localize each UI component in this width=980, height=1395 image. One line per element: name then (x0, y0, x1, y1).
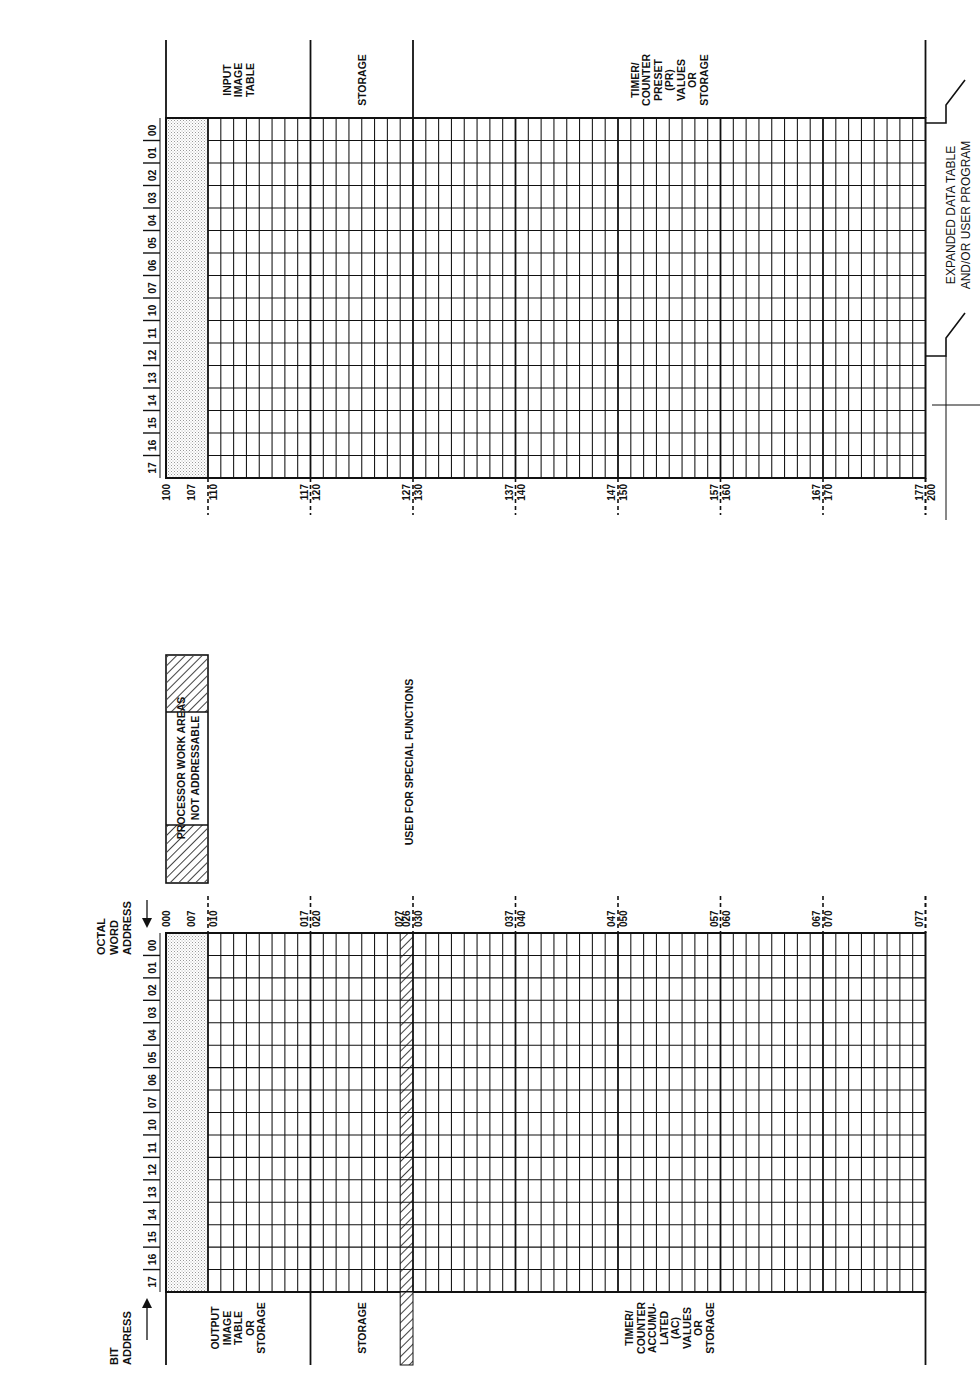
svg-text:ADDRESS: ADDRESS (121, 1311, 133, 1365)
word-address-label: 147 (606, 484, 617, 501)
bit-number-label: 07 (146, 1096, 158, 1108)
word-address-label: 150 (618, 484, 629, 501)
word-address-label: 117 (299, 484, 310, 501)
word-address-label: 047 (606, 910, 617, 927)
word-address-label: 067 (811, 910, 822, 927)
region-label: (PR) (663, 69, 675, 91)
word-address-label: 160 (721, 484, 732, 501)
region-label: TABLE (244, 63, 256, 97)
svg-text:EXPANDED DATA TABLE: EXPANDED DATA TABLE (944, 146, 958, 284)
word-address-label: 130 (413, 484, 424, 501)
octal-word-address-label: OCTAL WORD ADDRESS (95, 900, 152, 955)
region-label: OR (244, 1320, 256, 1336)
region-label: VALUES (675, 59, 687, 101)
word-address-label: 017 (299, 910, 310, 927)
word-address-label: 037 (504, 910, 515, 927)
region-label: VALUES (681, 1307, 693, 1349)
bit-number-label: 17 (146, 462, 158, 474)
region-label: TIMER/ (623, 1310, 635, 1346)
bit-number-label: 16 (146, 439, 158, 451)
bit-number-label: 14 (146, 394, 158, 406)
bit-number-label: 05 (146, 1052, 158, 1064)
svg-text:BIT: BIT (108, 1347, 120, 1365)
region-label: INPUT (221, 64, 233, 96)
reserved-words-block (166, 933, 208, 1292)
bit-number-label: 10 (146, 1119, 158, 1131)
bit-number-label: 14 (146, 1209, 158, 1221)
region-label: OR (692, 1320, 704, 1336)
svg-text:AND/OR USER PROGRAM: AND/OR USER PROGRAM (959, 141, 973, 290)
bit-number-label: 15 (146, 417, 158, 429)
bit-number-label: 05 (146, 237, 158, 249)
bit-number-label: 13 (146, 1186, 158, 1198)
word-address-label: 157 (709, 484, 720, 501)
word-address-label: 077 (914, 910, 925, 927)
word-address-label: 070 (823, 910, 834, 927)
bit-number-label: 03 (146, 192, 158, 204)
region-label: STORAGE (704, 1302, 716, 1354)
word-address-label: 200 (926, 484, 937, 501)
svg-text:ADDRESS: ADDRESS (121, 901, 133, 955)
region-label: LATED (658, 1310, 670, 1345)
memory-map-diagram: BIT ADDRESS OCTAL WORD ADDRESS 171615141… (0, 0, 980, 1395)
region-label: COUNTER (640, 54, 652, 106)
bit-number-label: 06 (146, 259, 158, 271)
bit-address-label: BIT ADDRESS (108, 1298, 152, 1365)
word-address-label: 137 (504, 484, 515, 501)
region-label: IMAGE (232, 63, 244, 97)
region-label: OUTPUT (209, 1306, 221, 1350)
word-address-label: 007 (186, 910, 197, 927)
svg-text:NOT ADDRESSABLE: NOT ADDRESSABLE (189, 716, 201, 821)
word-address-label: 020 (311, 910, 322, 927)
bit-number-label: 12 (146, 1164, 158, 1176)
bit-number-label: 17 (146, 1276, 158, 1288)
region-label: TIMER/ (629, 62, 641, 98)
bit-number-label: 12 (146, 349, 158, 361)
bit-number-label: 07 (146, 282, 158, 294)
word-address-label: 040 (516, 910, 527, 927)
svg-text:PROCESSOR WORK AREAS: PROCESSOR WORK AREAS (175, 697, 187, 840)
svg-text:OCTAL: OCTAL (95, 918, 107, 955)
region-label: (AC) (669, 1317, 681, 1339)
word-address-label: 100 (161, 484, 172, 501)
word-address-label: 000 (161, 910, 172, 927)
word-address-label: 167 (811, 484, 822, 501)
bit-number-label: 13 (146, 372, 158, 384)
reserved-words-block (166, 118, 208, 478)
bit-number-label: 06 (146, 1074, 158, 1086)
bit-number-label: 16 (146, 1254, 158, 1266)
bit-number-label: 10 (146, 304, 158, 316)
upper-data-table: 1716151413121110070605040302010010010711… (143, 40, 937, 515)
region-label: OR (686, 72, 698, 88)
word-address-label: 177 (914, 484, 925, 501)
region-label: STORAGE (255, 1302, 267, 1354)
bit-number-label: 11 (146, 1142, 158, 1153)
bit-number-label: 04 (146, 1029, 158, 1041)
word-address-label: 050 (618, 910, 629, 927)
expansion-note: EXPANDED DATA TABLE AND/OR USER PROGRAM (925, 80, 980, 520)
word-address-label: 140 (516, 484, 527, 501)
bit-number-label: 01 (146, 147, 158, 159)
bit-number-label: 04 (146, 214, 158, 226)
arrow-down-icon (142, 900, 152, 928)
region-label: PRESET (652, 58, 664, 101)
processor-work-area-box: PROCESSOR WORK AREAS NOT ADDRESSABLE (166, 655, 208, 883)
region-label: STORAGE (698, 54, 710, 106)
word-address-label: 010 (208, 910, 219, 927)
word-address-label: 120 (311, 484, 322, 501)
lower-data-table: 1716151413121110070605040302010000000701… (143, 896, 926, 1365)
word-address-label: 057 (709, 910, 720, 927)
region-label: STORAGE (356, 54, 368, 106)
svg-text:WORD: WORD (108, 920, 120, 955)
region-divider-hatched (400, 1292, 413, 1365)
arrow-right-icon (142, 1298, 152, 1340)
bit-number-label: 03 (146, 1007, 158, 1019)
word-address-label: 107 (186, 484, 197, 501)
word-address-label: 030 (413, 910, 424, 927)
word-address-label: 170 (823, 484, 834, 501)
bit-number-label: 00 (146, 939, 158, 951)
special-functions-note: USED FOR SPECIAL FUNCTIONS (403, 679, 415, 846)
word-address-label: 110 (208, 484, 219, 501)
bit-number-label: 15 (146, 1231, 158, 1243)
region-label: TABLE (232, 1311, 244, 1345)
